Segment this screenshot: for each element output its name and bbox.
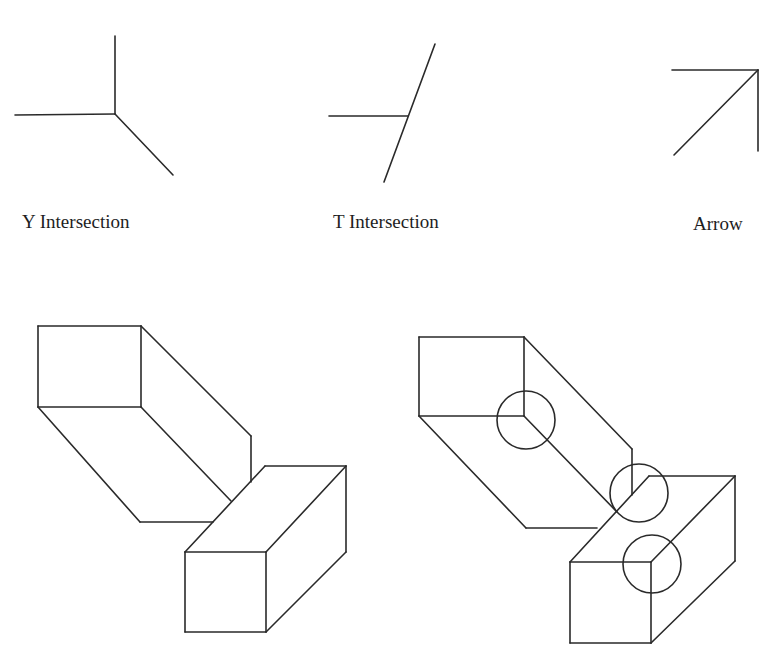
- scene-circled-boxes: [419, 337, 735, 643]
- t-junction-circle: [610, 464, 668, 522]
- caption-t-intersection: T Intersection: [333, 212, 439, 231]
- box-edge: [185, 466, 265, 552]
- box-edge: [524, 416, 617, 512]
- junction-edge: [15, 114, 115, 115]
- junction-type-examples: [15, 36, 758, 182]
- caption-y-intersection: Y Intersection: [22, 212, 129, 231]
- junction-arrow-diagram: [672, 70, 758, 155]
- caption-arrow: Arrow: [693, 214, 743, 233]
- junction-y-diagram: [15, 36, 173, 175]
- box-edge: [266, 466, 346, 552]
- line-drawing-figure: [0, 0, 779, 660]
- box-edge: [141, 407, 231, 501]
- box-edge: [419, 416, 526, 528]
- junction-edge: [384, 44, 435, 182]
- y-junction-circle: [497, 391, 555, 449]
- scene-plain-boxes: [38, 326, 346, 632]
- box-edge: [651, 476, 735, 562]
- box-edge: [651, 561, 735, 643]
- arrow-junction-circle: [623, 535, 681, 593]
- box-scenes: [38, 326, 735, 643]
- junction-edge: [674, 70, 758, 155]
- box-edge: [266, 552, 346, 632]
- junction-t-diagram: [329, 44, 435, 182]
- box-edge: [38, 407, 140, 522]
- box-edge: [141, 326, 251, 436]
- junction-edge: [115, 114, 173, 175]
